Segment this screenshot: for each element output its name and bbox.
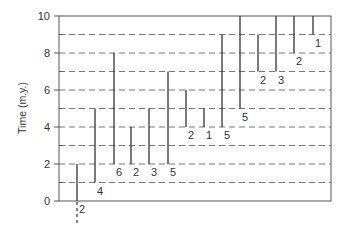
range-bar-label: 4 [97,185,103,197]
range-bar-9: 5 [222,35,230,142]
range-bar-10: 5 [240,16,248,123]
range-bar-14: 1 [313,16,321,49]
range-bar-label: 3 [151,166,157,178]
range-bar-label: 2 [133,166,139,178]
range-bar-label: 2 [188,129,194,141]
range-bar-label: 6 [116,166,122,178]
range-bar-label: 2 [79,203,85,215]
range-bars: 24623521552321 [77,16,321,223]
range-bar-7: 2 [186,90,194,141]
range-bar-11: 2 [258,35,266,86]
y-axis: 0246810 [38,10,62,207]
range-bar-label: 5 [224,129,230,141]
range-bar-13: 2 [294,16,302,67]
range-bar-4: 2 [131,127,139,178]
y-tick-label-6: 6 [44,84,50,96]
range-chart: 0246810 24623521552321 Time (m.y.) [0,0,348,225]
y-tick-label-8: 8 [44,47,50,59]
gridlines [59,35,331,183]
range-bar-label: 1 [206,129,212,141]
y-tick-label-4: 4 [44,121,50,133]
range-bar-6: 5 [168,72,176,179]
range-bar-8: 1 [204,109,212,142]
range-bar-5: 3 [149,109,157,179]
range-bar-12: 3 [276,16,284,86]
y-tick-label-2: 2 [44,158,50,170]
range-bar-label: 5 [170,166,176,178]
range-bar-label: 3 [278,74,284,86]
y-axis-title: Time (m.y.) [16,82,28,134]
range-bar-1: 2 [77,164,85,223]
range-bar-label: 2 [296,55,302,67]
range-bar-label: 2 [260,74,266,86]
y-tick-label-0: 0 [44,195,50,207]
y-tick-label-10: 10 [38,10,50,22]
range-bar-label: 1 [315,37,321,49]
range-bar-2: 4 [95,109,103,197]
range-bar-label: 5 [242,111,248,123]
